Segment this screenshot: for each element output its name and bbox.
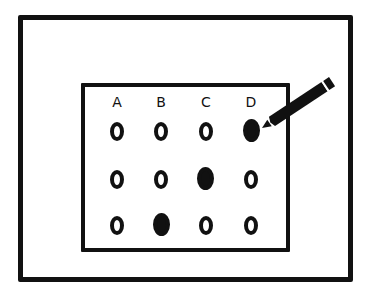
pencil-icon	[0, 0, 370, 294]
